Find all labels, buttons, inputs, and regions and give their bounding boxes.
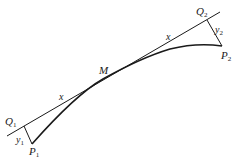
label-x-right: x <box>166 32 170 42</box>
label-M: M <box>99 65 108 76</box>
label-P2: P2 <box>221 50 231 63</box>
label-P1: P1 <box>29 146 39 159</box>
diagram-graphics <box>0 0 236 164</box>
label-y1: y1 <box>16 135 24 147</box>
label-Q1: Q1 <box>5 116 16 129</box>
label-y2: y2 <box>215 25 223 37</box>
offset-y1 <box>24 126 32 144</box>
label-x-left: x <box>59 92 63 102</box>
curve-tangent-diagram: Q1 y1 P1 x M x Q2 y2 P2 <box>0 0 236 164</box>
label-Q2: Q2 <box>196 6 207 19</box>
